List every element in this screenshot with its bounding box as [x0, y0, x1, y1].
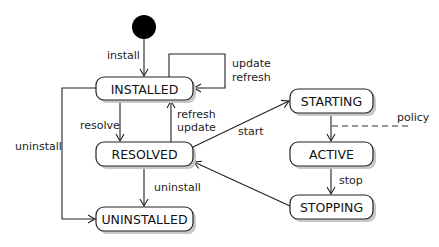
- state-label-active: ACTIVE: [309, 147, 354, 162]
- edge-label-stop: stop: [339, 174, 363, 187]
- edge-uninstall-resolved: uninstall: [144, 167, 201, 206]
- state-active: ACTIVE: [290, 142, 376, 169]
- edge-stop: stop: [331, 167, 363, 194]
- edge-label-policy: policy: [397, 111, 430, 124]
- edge-label-uninstall2: uninstall: [154, 181, 201, 194]
- initial-node: [132, 15, 156, 39]
- state-starting: STARTING: [290, 89, 376, 116]
- state-installed: INSTALLED: [96, 77, 196, 103]
- edge-label-update2: update: [177, 121, 216, 134]
- edge-label-uninstall1: uninstall: [15, 140, 62, 153]
- edge-install: install: [107, 39, 144, 76]
- edge-label-resolve: resolve: [80, 119, 120, 132]
- state-label-stopping: STOPPING: [300, 200, 363, 215]
- edge-uninstall-installed: uninstall: [15, 88, 96, 219]
- state-diagram: install update refresh resolve refresh u…: [0, 0, 439, 247]
- state-resolved: RESOLVED: [96, 142, 196, 169]
- state-label-resolved: RESOLVED: [111, 147, 177, 162]
- state-label-uninstalled: UNINSTALLED: [101, 212, 187, 227]
- edge-stopping-resolved: [194, 162, 290, 206]
- state-uninstalled: UNINSTALLED: [96, 207, 196, 234]
- edge-resolve: resolve: [80, 101, 120, 141]
- edge-refresh-update: refresh update: [171, 101, 216, 142]
- state-label-starting: STARTING: [301, 94, 362, 109]
- edge-label-install: install: [107, 49, 140, 62]
- edge-label-refresh: refresh: [232, 71, 271, 84]
- edge-label-refresh2: refresh: [177, 108, 216, 121]
- edge-label-update: update: [232, 57, 271, 70]
- state-stopping: STOPPING: [290, 195, 376, 222]
- state-label-installed: INSTALLED: [111, 82, 179, 97]
- edge-label-start: start: [238, 125, 264, 138]
